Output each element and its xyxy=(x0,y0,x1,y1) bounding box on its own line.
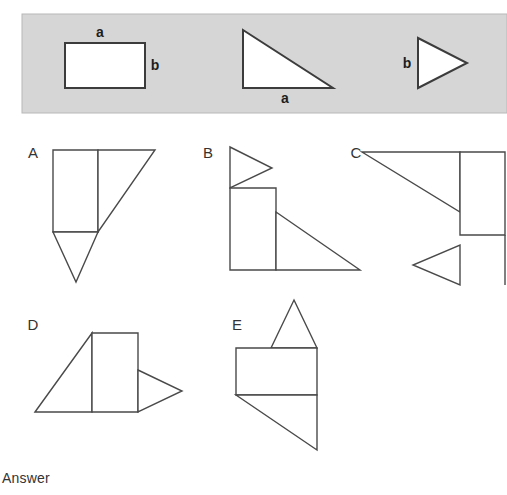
option-label-d: D xyxy=(28,316,39,333)
option-b[interactable]: B xyxy=(203,144,360,270)
option-c-small-triangle xyxy=(413,245,460,285)
option-label-c: C xyxy=(351,144,362,161)
option-a-small-triangle xyxy=(53,232,98,282)
dimension-label-b: b xyxy=(151,57,160,73)
option-b-rectangle xyxy=(230,188,276,270)
option-d-small-triangle xyxy=(138,370,182,412)
option-e-large-triangle xyxy=(236,395,317,450)
option-e-small-triangle xyxy=(271,300,317,348)
option-e[interactable]: E xyxy=(232,300,317,450)
dimension-label-a: a xyxy=(96,24,104,40)
option-b-small-triangle xyxy=(230,147,272,188)
option-d[interactable]: D xyxy=(28,316,182,412)
option-a-large-triangle xyxy=(98,150,155,232)
prompt-rectangle xyxy=(65,43,145,88)
dimension-label-b: b xyxy=(403,55,412,71)
prompt-band: abab xyxy=(22,14,507,113)
option-d-rectangle xyxy=(92,333,138,412)
option-a[interactable]: A xyxy=(28,144,155,282)
option-b-large-triangle xyxy=(276,212,360,270)
option-label-e: E xyxy=(232,316,242,333)
option-c[interactable]: C xyxy=(351,144,505,285)
answer-options: ABCDE xyxy=(28,144,505,450)
dimension-label-a: a xyxy=(281,90,289,106)
puzzle-figure: abab ABCDE xyxy=(0,0,507,495)
option-label-a: A xyxy=(28,144,38,161)
option-d-large-triangle xyxy=(35,333,92,412)
option-a-rectangle xyxy=(53,150,98,232)
option-e-rectangle xyxy=(236,348,317,395)
option-c-large-triangle xyxy=(362,152,460,212)
option-c-rectangle xyxy=(460,152,505,235)
answer-label: Answer xyxy=(2,470,50,486)
option-label-b: B xyxy=(203,144,213,161)
